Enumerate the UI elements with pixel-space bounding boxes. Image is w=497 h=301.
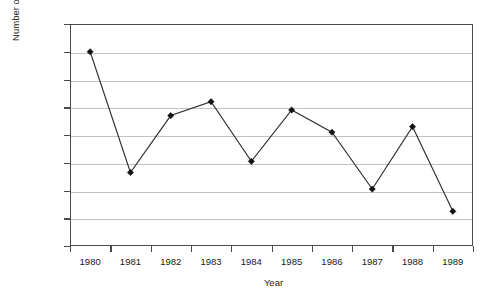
y-axis-tick-mark <box>64 24 70 25</box>
x-axis-tick-mark <box>352 246 353 252</box>
gridline <box>71 164 472 165</box>
y-axis-tick-mark <box>64 107 70 108</box>
gridline <box>71 108 472 109</box>
x-axis-tick-label: 1988 <box>402 255 423 268</box>
x-axis-title: Year <box>0 276 497 289</box>
x-axis-tick-mark <box>272 246 273 252</box>
x-axis-tick-mark <box>433 246 434 252</box>
x-axis-tick-mark <box>392 246 393 252</box>
x-axis-tick-mark <box>110 246 111 252</box>
x-axis-title-text: Year <box>264 277 283 288</box>
x-axis-tick-label: 1989 <box>442 255 463 268</box>
gridline <box>71 192 472 193</box>
x-axis-tick-label: 1980 <box>80 255 101 268</box>
x-axis-tick-label: 1981 <box>120 255 141 268</box>
x-axis-tick-mark <box>191 246 192 252</box>
plot-area <box>70 24 473 246</box>
gridline <box>71 81 472 82</box>
x-axis-tick-label: 1983 <box>200 255 221 268</box>
line-chart: 020 00040 00060 00080 000100 000120 0001… <box>0 0 497 301</box>
x-axis-tick-mark <box>231 246 232 252</box>
y-axis-title: Number of cases <box>9 0 22 70</box>
y-axis-tick-mark <box>64 52 70 53</box>
x-axis-tick-label: 1987 <box>362 255 383 268</box>
x-axis-tick-mark <box>151 246 152 252</box>
x-axis-tick-label: 1985 <box>281 255 302 268</box>
x-axis-tick-label: 1984 <box>241 255 262 268</box>
gridline <box>71 53 472 54</box>
y-axis-tick-mark <box>64 163 70 164</box>
y-axis-tick-mark <box>64 218 70 219</box>
y-axis-tick-mark <box>64 135 70 136</box>
y-axis-tick-mark <box>64 80 70 81</box>
x-axis-tick-mark <box>312 246 313 252</box>
x-axis-tick-label: 1982 <box>160 255 181 268</box>
x-axis-tick-label: 1986 <box>321 255 342 268</box>
x-axis-tick-mark <box>473 246 474 252</box>
gridline <box>71 219 472 220</box>
x-axis-tick-mark <box>70 246 71 252</box>
gridline <box>71 136 472 137</box>
y-axis-tick-mark <box>64 191 70 192</box>
